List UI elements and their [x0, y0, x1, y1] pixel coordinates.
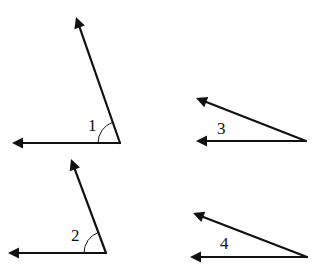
angle-4: 4: [190, 212, 307, 263]
angle-label: 3: [217, 119, 226, 138]
angle-2: 2: [8, 159, 106, 259]
slanted-ray: [75, 169, 106, 253]
angle-arc-mark: [98, 122, 113, 143]
arrowhead-icon: [190, 252, 201, 263]
angle-3: 3: [196, 97, 306, 147]
slanted-ray: [203, 217, 307, 257]
angle-label: 1: [88, 116, 97, 135]
angle-1: 1: [12, 17, 120, 149]
angle-label: 4: [220, 234, 229, 253]
angles-figure: 1234: [0, 0, 314, 274]
arrowhead-icon: [196, 136, 207, 147]
arrowhead-icon: [8, 248, 19, 259]
angle-label: 2: [71, 226, 80, 245]
arrowhead-icon: [12, 138, 23, 149]
angle-diagram: 1234: [0, 0, 314, 274]
angle-arc-mark: [84, 232, 98, 253]
arrowhead-icon: [74, 17, 84, 29]
slanted-ray: [80, 27, 120, 143]
